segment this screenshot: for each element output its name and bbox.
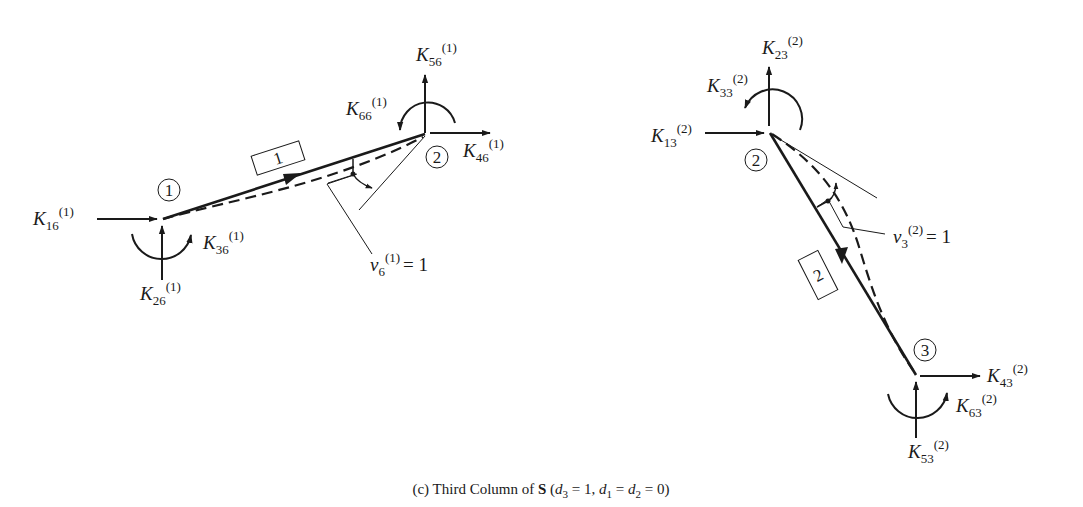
- force-K23-label: K23(2): [761, 33, 803, 62]
- moment-K63-label: K63(2): [955, 391, 997, 420]
- structure-diagram: 1 1 2 K16(1) K26(1) K36(1) K46(1) K56(1)…: [0, 0, 1083, 507]
- force-K53-label: K53(2): [907, 437, 949, 466]
- node-3-label: 3: [921, 341, 930, 360]
- force-K56-label: K56(1): [415, 40, 457, 69]
- node-1-label: 1: [165, 181, 174, 200]
- deformation-v6-label: v6(1)= 1: [370, 250, 428, 279]
- member-1-tangent-line: [359, 136, 425, 210]
- moment-K66-arrow-icon: [400, 102, 455, 130]
- moment-K66-label: K66(1): [345, 94, 387, 123]
- moment-K63-arrow-icon: [888, 393, 947, 418]
- member-2-group: 2 2 3 K13(2) K23(2) K33(2) K43(2) K53(2)…: [650, 33, 1028, 466]
- node-2-label-left: 2: [433, 148, 442, 167]
- force-K46-label: K46(1): [462, 136, 504, 165]
- member-1-label-box: 1: [251, 141, 305, 175]
- moment-K33-arrow-icon: [745, 89, 802, 130]
- moment-K33-label: K33(2): [706, 71, 748, 100]
- force-K16-label: K16(1): [32, 204, 74, 233]
- force-K13-label: K13(2): [650, 121, 692, 150]
- member-2-label-box: 2: [798, 250, 838, 299]
- member-2-leader-top: [817, 200, 827, 207]
- member-1-direction-arrow-icon: [283, 173, 301, 185]
- member-1-rotation-arrow-icon: [353, 174, 372, 188]
- member-1-leader-down: [327, 184, 372, 254]
- member-2-leader-line: [830, 203, 885, 234]
- deformation-v3-label: v3(2)= 1: [893, 222, 951, 251]
- figure-caption: (c) Third Column of S (d3 = 1, d1 = d2 =…: [412, 481, 669, 500]
- force-K26-label: K26(1): [139, 279, 181, 308]
- node-2-label-right: 2: [752, 151, 761, 170]
- member-1-group: 1 1 2 K16(1) K26(1) K36(1) K46(1) K56(1)…: [32, 40, 504, 308]
- force-K43-label: K43(2): [986, 361, 1028, 390]
- moment-K36-label: K36(1): [202, 228, 244, 257]
- member-2-tangent-line: [771, 134, 877, 198]
